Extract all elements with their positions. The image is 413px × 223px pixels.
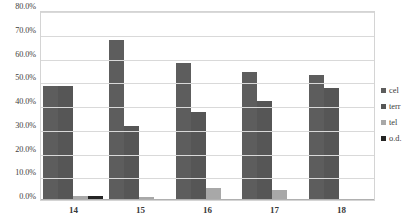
bar-groups [41,12,374,200]
gridline [41,155,374,156]
legend-label: o.d. [389,134,402,143]
legend-label: cel [389,86,399,95]
legend-item[interactable]: tel [381,114,413,130]
gridline [41,60,374,61]
bar-group [43,12,106,200]
bar-group [176,12,239,200]
bar[interactable] [191,112,206,200]
x-axis: 1415161718 [40,203,375,221]
bar[interactable] [43,86,58,200]
y-tick-label: 60.0% [15,51,36,59]
y-tick-label: 0.0% [19,193,36,201]
y-tick-label: 40.0% [15,98,36,106]
gridline [41,83,374,84]
chart-legend: celterrtelo.d. [381,82,413,146]
bar[interactable] [257,101,272,200]
axis-baseline [41,199,374,200]
legend-swatch-icon [381,104,386,109]
bar[interactable] [324,88,339,200]
bar-chart: 80.0%70.0%60.0%50.0%40.0%30.0%20.0%10.0%… [0,0,413,223]
bar[interactable] [309,75,324,200]
plot-area [40,11,375,201]
gridline [41,12,374,13]
bar[interactable] [58,86,73,200]
gridline [41,131,374,132]
legend-label: terr [389,102,401,111]
legend-item[interactable]: cel [381,82,413,98]
bar-group [109,12,172,200]
x-tick-label: 15 [109,203,173,221]
gridline [41,36,374,37]
y-tick-label: 30.0% [15,122,36,130]
legend-item[interactable]: o.d. [381,130,413,146]
x-tick-label: 18 [310,203,374,221]
legend-swatch-icon [381,88,386,93]
bar[interactable] [242,72,257,200]
legend-swatch-icon [381,120,386,125]
y-tick-label: 50.0% [15,74,36,82]
x-tick-label: 14 [42,203,106,221]
gridline [41,107,374,108]
y-tick-label: 20.0% [15,146,36,154]
y-tick-label: 80.0% [15,3,36,11]
legend-item[interactable]: terr [381,98,413,114]
bar[interactable] [124,126,139,200]
bar-group [309,12,372,200]
x-tick-label: 17 [243,203,307,221]
x-tick-label: 16 [176,203,240,221]
y-tick-label: 70.0% [15,27,36,35]
chart-title [120,0,350,3]
bar[interactable] [109,40,124,200]
legend-label: tel [389,118,397,127]
y-tick-label: 10.0% [15,169,36,177]
legend-swatch-icon [381,136,386,141]
gridline [41,178,374,179]
bar-group [242,12,305,200]
y-axis: 80.0%70.0%60.0%50.0%40.0%30.0%20.0%10.0%… [0,7,38,201]
